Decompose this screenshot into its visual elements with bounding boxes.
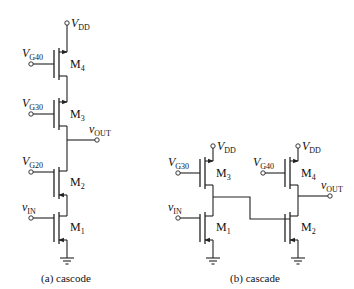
vout-terminal — [95, 138, 99, 142]
panel-b-cascade: VDD VG30 M3 vIN M1 — [168, 139, 343, 285]
transistor-m1: vIN M1 — [168, 200, 231, 244]
vin-label: vIN — [22, 200, 36, 216]
circuit-diagram: VDD VG40 M4 VG30 M3 vOUT — [0, 0, 354, 289]
gate-label-vg30: VG30 — [168, 155, 189, 171]
transistor-m3: VG30 M3 — [22, 96, 85, 130]
gate-terminal — [176, 171, 180, 175]
vout-label: vOUT — [321, 178, 343, 194]
gate-terminal — [29, 170, 33, 174]
transistor-label: M4 — [301, 166, 316, 182]
transistor-m1: vIN M1 — [22, 200, 85, 244]
vdd-label: VDD — [302, 139, 321, 155]
vdd-label: VDD — [217, 139, 236, 155]
vin-label: vIN — [168, 200, 182, 216]
gate-label-vg30: VG30 — [22, 96, 43, 112]
vdd-terminal — [296, 144, 300, 148]
gate-terminal — [261, 171, 265, 175]
gate-label-vg20: VG20 — [22, 154, 43, 170]
vout-label: vOUT — [89, 122, 111, 138]
transistor-label: M3 — [216, 166, 231, 182]
input-terminal — [176, 216, 180, 220]
ground-icon — [60, 258, 74, 264]
caption-b: (b) cascade — [230, 272, 280, 285]
transistor-m3: VG30 M3 — [168, 155, 231, 189]
panel-a-cascode: VDD VG40 M4 VG30 M3 vOUT — [22, 16, 111, 285]
transistor-m2: M2 — [285, 212, 316, 244]
vout-terminal — [328, 194, 332, 198]
vdd-terminal — [211, 144, 215, 148]
transistor-label: M2 — [301, 220, 316, 236]
gate-terminal — [29, 112, 33, 116]
caption-a: (a) cascode — [41, 272, 91, 285]
input-terminal — [29, 216, 33, 220]
transistor-label: M1 — [70, 220, 85, 236]
transistor-label: M4 — [70, 57, 85, 73]
gate-label-vg40: VG40 — [253, 155, 274, 171]
ground-icon — [291, 258, 305, 264]
transistor-m4: VG40 M4 — [22, 46, 85, 80]
gate-label-vg40: VG40 — [22, 46, 43, 62]
transistor-label: M2 — [70, 175, 85, 191]
transistor-m2: VG20 M2 — [22, 154, 85, 199]
transistor-label: M3 — [70, 107, 85, 123]
transistor-label: M1 — [216, 220, 231, 236]
vdd-label: VDD — [71, 16, 90, 32]
ground-icon — [206, 258, 220, 264]
interstage-wire — [213, 197, 290, 219]
transistor-m4: VG40 M4 — [253, 155, 316, 189]
vdd-terminal — [65, 21, 69, 25]
gate-terminal — [29, 62, 33, 66]
